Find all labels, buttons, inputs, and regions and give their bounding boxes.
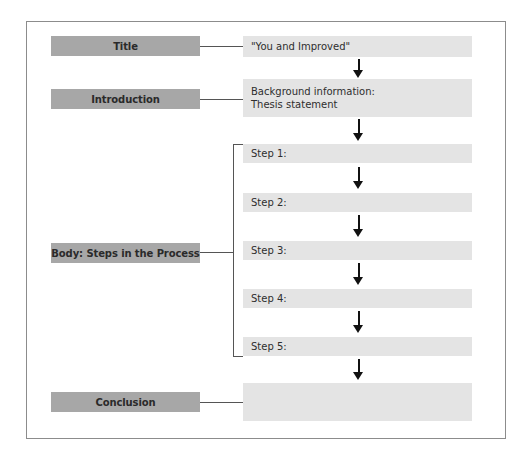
- conclusion-content-box: [243, 383, 472, 421]
- body-bracket: [233, 144, 234, 357]
- connector-introduction: [200, 99, 243, 100]
- arrow-down-icon: [353, 263, 364, 286]
- step-1-text: Step 1:: [251, 147, 287, 160]
- arrow-down-icon: [353, 359, 364, 381]
- label-body-text: Body: Steps in the Process: [51, 248, 199, 259]
- label-conclusion: Conclusion: [51, 392, 200, 412]
- label-title: Title: [51, 36, 200, 56]
- label-introduction-text: Introduction: [91, 94, 160, 105]
- step-box-3: Step 3:: [243, 241, 472, 260]
- title-content-text: "You and Improved": [251, 40, 350, 53]
- step-3-text: Step 3:: [251, 244, 287, 257]
- step-box-5: Step 5:: [243, 337, 472, 356]
- label-title-text: Title: [113, 41, 138, 52]
- body-bracket-bottom: [233, 356, 243, 357]
- step-box-4: Step 4:: [243, 289, 472, 308]
- step-2-text: Step 2:: [251, 196, 287, 209]
- arrow-down-icon: [353, 215, 364, 238]
- connector-conclusion: [200, 402, 243, 403]
- introduction-content-box: Background information: Thesis statement: [243, 79, 472, 117]
- step-4-text: Step 4:: [251, 292, 287, 305]
- step-box-1: Step 1:: [243, 144, 472, 163]
- connector-body: [200, 252, 234, 253]
- step-box-2: Step 2:: [243, 193, 472, 212]
- label-body: Body: Steps in the Process: [51, 243, 200, 263]
- connector-title: [200, 46, 243, 47]
- arrow-down-icon: [353, 59, 364, 78]
- arrow-down-icon: [353, 119, 364, 142]
- introduction-line-1: Background information:: [251, 85, 375, 98]
- label-conclusion-text: Conclusion: [95, 397, 155, 408]
- body-bracket-top: [233, 144, 243, 145]
- arrow-down-icon: [353, 167, 364, 190]
- step-5-text: Step 5:: [251, 340, 287, 353]
- introduction-line-2: Thesis statement: [251, 98, 337, 111]
- arrow-down-icon: [353, 311, 364, 334]
- title-content-box: "You and Improved": [243, 36, 472, 57]
- label-introduction: Introduction: [51, 89, 200, 109]
